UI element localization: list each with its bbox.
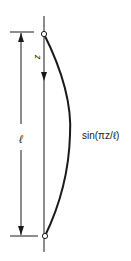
dimension-arrow-up-icon [18,33,24,42]
deflected-shape-curve [44,34,70,236]
mode-shape-label: sin(πz/ℓ) [82,130,119,141]
z-label: z [32,54,42,60]
top-pin-icon [41,31,46,36]
length-label: ℓ [18,133,23,145]
z-arrow-icon [41,72,47,81]
buckling-diagram: z ℓ sin(πz/ℓ) [0,0,131,261]
bottom-pin-icon [42,233,47,238]
dimension-arrow-down-icon [18,226,24,235]
